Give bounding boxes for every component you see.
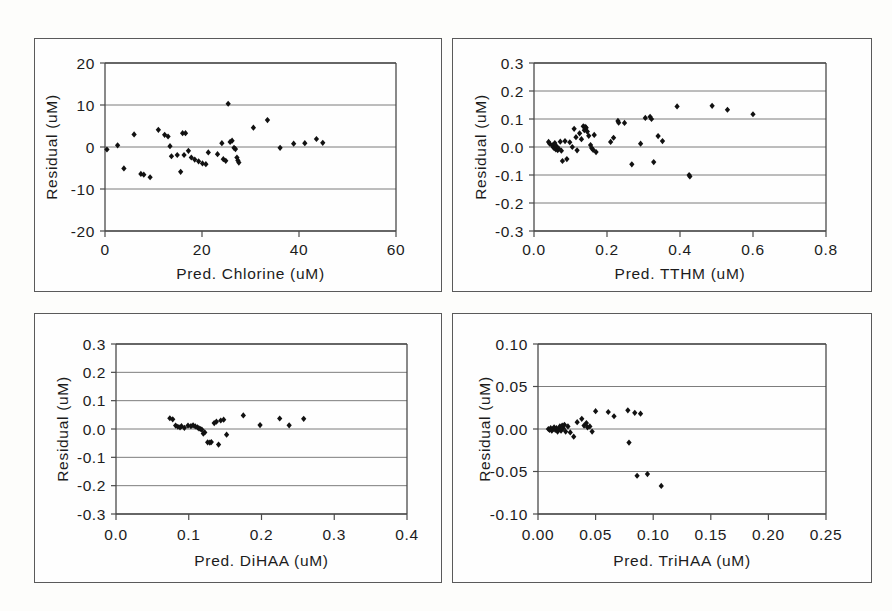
x-axis-title: Pred. DiHAA (uM): [194, 552, 328, 569]
data-point: [608, 139, 613, 145]
data-point: [167, 143, 172, 149]
data-point: [224, 432, 229, 438]
data-point: [301, 416, 306, 422]
y-axis-title: Residual (uM): [43, 94, 60, 200]
data-point: [147, 174, 152, 180]
data-point: [175, 152, 180, 158]
x-axis-title: Pred. TriHAA (uM): [613, 552, 751, 569]
data-point: [314, 136, 319, 142]
data-point: [115, 142, 120, 148]
data-point: [156, 127, 161, 133]
x-tick-label: 0.15: [695, 526, 728, 543]
data-point: [709, 103, 714, 109]
data-point: [567, 139, 572, 145]
data-point: [579, 416, 584, 422]
x-tick-label: 40: [290, 241, 308, 258]
y-tick-label: -0.3: [77, 506, 106, 523]
data-point: [265, 117, 270, 123]
data-point: [186, 148, 191, 154]
data-point: [215, 151, 220, 157]
data-point: [216, 441, 221, 447]
x-tick-label: 0.4: [395, 526, 418, 543]
data-point: [625, 407, 630, 413]
panel-tthm: -0.3-0.2-0.10.00.10.20.30.00.20.40.60.8P…: [452, 38, 872, 292]
data-point: [659, 483, 664, 489]
y-tick-label: -0.1: [495, 167, 524, 184]
data-point: [169, 153, 174, 159]
data-point: [571, 434, 576, 440]
data-point: [277, 145, 282, 151]
data-point: [634, 473, 639, 479]
data-point: [626, 440, 631, 446]
y-tick-label: -0.2: [77, 477, 106, 494]
y-tick-label: -0.10: [490, 506, 528, 523]
data-point: [560, 158, 565, 164]
x-tick-label: 0.2: [250, 526, 273, 543]
data-point: [241, 412, 246, 418]
data-point: [251, 125, 256, 131]
data-point: [577, 130, 582, 136]
data-point: [131, 131, 136, 137]
data-point: [632, 410, 637, 416]
x-tick-label: 0.05: [579, 526, 612, 543]
y-axis-title: Residual (uM): [476, 376, 493, 482]
data-point: [178, 169, 183, 175]
data-point: [219, 140, 224, 146]
x-tick-label: 0.2: [595, 241, 618, 258]
data-point: [183, 130, 188, 136]
data-point: [674, 103, 679, 109]
data-point: [573, 134, 578, 140]
data-point: [257, 422, 262, 428]
chart-tthm: -0.3-0.2-0.10.00.10.20.30.00.20.40.60.8P…: [453, 39, 873, 293]
data-point: [611, 413, 616, 419]
data-point: [558, 139, 563, 145]
data-point: [655, 133, 660, 139]
data-point: [277, 415, 282, 421]
y-axis-title: Residual (uM): [472, 94, 489, 200]
x-axis-title: Pred. Chlorine (uM): [176, 265, 325, 282]
y-tick-label: 10: [77, 97, 95, 114]
y-tick-label: 0.00: [495, 421, 528, 438]
x-tick-label: 0.4: [668, 241, 691, 258]
y-tick-label: 0.3: [501, 55, 524, 72]
data-point: [606, 409, 611, 415]
data-point: [725, 107, 730, 113]
data-point: [638, 411, 643, 417]
x-tick-label: 0.0: [104, 526, 127, 543]
y-tick-label: 0.0: [83, 421, 106, 438]
x-tick-label: 0.00: [522, 526, 555, 543]
x-tick-label: 0: [100, 241, 109, 258]
data-point: [291, 141, 296, 147]
x-tick-label: 0.6: [741, 241, 764, 258]
data-point: [562, 138, 567, 144]
y-tick-label: 0.05: [495, 378, 528, 395]
data-point: [287, 422, 292, 428]
x-tick-label: 20: [193, 241, 211, 258]
chart-dihaa: -0.3-0.2-0.10.00.10.20.30.00.10.20.30.4P…: [35, 314, 443, 584]
x-tick-label: 0.10: [637, 526, 670, 543]
data-point: [564, 156, 569, 162]
panel-chlorine: -20-10010200204060Pred. Chlorine (uM)Res…: [34, 38, 442, 292]
y-tick-label: 0.1: [501, 111, 524, 128]
data-point: [643, 115, 648, 121]
y-tick-label: 0.2: [83, 364, 106, 381]
data-point: [206, 149, 211, 155]
y-tick-label: 0.0: [501, 139, 524, 156]
y-tick-label: 0.3: [83, 336, 106, 353]
y-tick-label: -0.3: [495, 223, 524, 240]
y-tick-label: -0.1: [77, 449, 106, 466]
y-tick-label: -10: [71, 181, 95, 198]
chart-chlorine: -20-10010200204060Pred. Chlorine (uM)Res…: [35, 39, 443, 293]
data-point: [575, 419, 580, 425]
y-tick-label: 0.1: [83, 392, 106, 409]
data-point: [651, 159, 656, 165]
x-tick-label: 0.0: [522, 241, 545, 258]
y-tick-label: -0.05: [490, 463, 528, 480]
data-point: [226, 101, 231, 107]
x-tick-label: 60: [387, 241, 405, 258]
data-point: [320, 140, 325, 146]
x-tick-label: 0.25: [810, 526, 843, 543]
y-tick-label: 0.2: [501, 83, 524, 100]
panel-dihaa: -0.3-0.2-0.10.00.10.20.30.00.10.20.30.4P…: [34, 313, 442, 583]
figure-page: -20-10010200204060Pred. Chlorine (uM)Res…: [0, 0, 892, 611]
